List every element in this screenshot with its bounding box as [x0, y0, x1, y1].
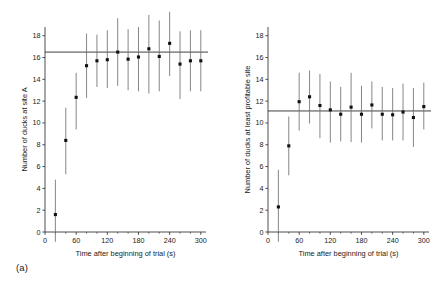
data-point-marker — [158, 55, 161, 58]
panel-a-caption: (a) — [16, 262, 28, 273]
data-point-marker — [339, 113, 342, 116]
y-tick-label: 16 — [33, 53, 41, 62]
plot-area: 024681012141618060120180240300Time after… — [243, 27, 431, 258]
x-tick-label: 60 — [72, 236, 80, 245]
data-point-marker — [401, 111, 404, 114]
data-point-marker — [147, 47, 150, 50]
y-tick-label: 16 — [256, 53, 264, 62]
y-tick-label: 4 — [260, 184, 264, 193]
data-point-marker — [412, 116, 415, 119]
data-point-marker — [308, 95, 311, 98]
data-point-marker — [95, 59, 98, 62]
data-point-marker — [85, 64, 88, 67]
x-tick-label: 300 — [418, 236, 430, 245]
x-axis-title: Time after beginning of trial (s) — [299, 249, 399, 258]
data-point-marker — [189, 59, 192, 62]
x-tick-label: 180 — [132, 236, 144, 245]
panel-a: 024681012141618060120180240300Time after… — [0, 0, 221, 293]
data-point-marker — [127, 58, 130, 61]
data-point-marker — [391, 113, 394, 116]
data-point-marker — [116, 51, 119, 54]
x-tick-label: 240 — [164, 236, 176, 245]
data-point-marker — [318, 104, 321, 107]
y-tick-label: 10 — [33, 118, 41, 127]
x-tick-label: 60 — [295, 236, 303, 245]
panel-b: 024681012141618060120180240300Time after… — [221, 0, 442, 293]
x-tick-label: 180 — [355, 236, 367, 245]
y-tick-label: 0 — [260, 228, 264, 237]
data-point-marker — [168, 42, 171, 45]
y-tick-label: 6 — [37, 162, 41, 171]
data-point-marker — [298, 100, 301, 103]
data-point-marker — [178, 63, 181, 66]
y-tick-label: 12 — [33, 97, 41, 106]
data-point-marker — [277, 205, 280, 208]
data-point-marker — [64, 139, 67, 142]
y-tick-label: 14 — [33, 75, 41, 84]
data-point-marker — [137, 55, 140, 58]
y-axis-title: Number of ducks at least profitable site — [243, 66, 252, 194]
y-tick-label: 6 — [260, 162, 264, 171]
data-point-marker — [350, 106, 353, 109]
data-point-marker — [422, 105, 425, 108]
data-point-marker — [360, 113, 363, 116]
data-point-marker — [199, 59, 202, 62]
y-tick-label: 8 — [37, 140, 41, 149]
data-point-marker — [381, 113, 384, 116]
x-axis-title: Time after beginning of trial (s) — [76, 249, 176, 258]
data-point-marker — [75, 96, 78, 99]
data-point-marker — [329, 108, 332, 111]
y-tick-label: 2 — [260, 206, 264, 215]
x-tick-label: 300 — [195, 236, 207, 245]
y-tick-label: 14 — [256, 75, 264, 84]
data-point-marker — [287, 144, 290, 147]
panel-a-plot: 024681012141618060120180240300Time after… — [0, 0, 221, 293]
x-tick-label: 0 — [266, 236, 270, 245]
data-point-marker — [54, 213, 57, 216]
x-tick-label: 0 — [43, 236, 47, 245]
y-axis-title: Number of ducks at site A — [20, 87, 29, 171]
data-point-marker — [106, 58, 109, 61]
y-tick-label: 12 — [256, 97, 264, 106]
x-tick-label: 240 — [387, 236, 399, 245]
y-tick-label: 18 — [256, 31, 264, 40]
x-tick-label: 120 — [101, 236, 113, 245]
data-point-marker — [370, 103, 373, 106]
plot-area: 024681012141618060120180240300Time after… — [20, 12, 208, 258]
y-tick-label: 10 — [256, 118, 264, 127]
x-tick-label: 120 — [324, 236, 336, 245]
y-tick-label: 18 — [33, 31, 41, 40]
y-tick-label: 0 — [37, 228, 41, 237]
y-tick-label: 2 — [37, 206, 41, 215]
y-tick-label: 4 — [37, 184, 41, 193]
panel-b-plot: 024681012141618060120180240300Time after… — [221, 0, 442, 293]
duck-distribution-figure: 024681012141618060120180240300Time after… — [0, 0, 442, 293]
y-tick-label: 8 — [260, 140, 264, 149]
